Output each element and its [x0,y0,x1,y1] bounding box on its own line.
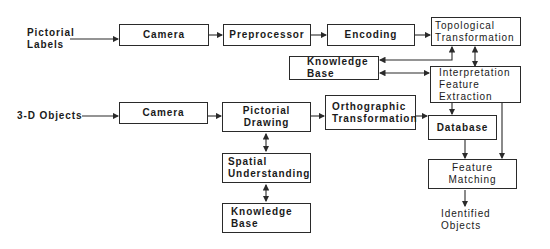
kb-bottom-line1: Knowledge [231,206,292,218]
pictorial-drawing-line1: Pictorial [243,105,291,117]
database-box: Database [428,115,497,140]
camera-top-label: Camera [143,29,185,41]
interpretation-line3: Extraction [439,91,492,103]
knowledge-base-bottom-box: Knowledge Base [222,203,311,233]
pictorial-labels-line1: Pictorial [27,27,75,39]
interpretation-line1: Interpretation [439,67,511,79]
database-label: Database [437,122,489,134]
spatial-line1: Spatial [228,156,267,168]
kb-top-line1: Knowledge [307,56,368,68]
camera-top-box: Camera [119,24,209,46]
encoding-label: Encoding [345,29,398,41]
block-diagram: Pictorial Labels 3-D Objects Camera Prep… [0,0,550,249]
spatial-line2: Understanding [228,168,310,180]
preprocessor-label: Preprocessor [229,29,304,41]
identified-objects-line2: Objects [441,220,491,232]
kb-top-line2: Base [307,68,335,80]
orthographic-line2: Transformation [332,113,417,125]
identified-objects-output: Identified Objects [441,208,491,232]
pictorial-drawing-line2: Drawing [244,117,290,129]
objects-3d-input: 3-D Objects [17,110,82,122]
camera-bottom-label: Camera [142,107,184,119]
topological-transformation-box: Topological Transformation [431,17,521,46]
preprocessor-box: Preprocessor [223,24,311,46]
spatial-understanding-box: Spatial Understanding [222,153,311,183]
pictorial-drawing-box: Pictorial Drawing [222,102,311,132]
camera-bottom-box: Camera [119,102,208,124]
identified-objects-line1: Identified [441,208,491,220]
pictorial-labels-input: Pictorial Labels [27,27,75,51]
feature-matching-box: Feature Matching [428,159,517,189]
interpretation-line2: Feature [439,79,480,91]
topological-line2: Transformation [435,32,514,44]
topological-line1: Topological [435,20,495,32]
knowledge-base-top-box: Knowledge Base [289,56,379,80]
interpretation-feature-extraction-box: Interpretation Feature Extraction [430,66,521,103]
feature-matching-line2: Matching [449,174,497,186]
orthographic-line1: Orthographic [332,101,406,113]
kb-bottom-line2: Base [231,218,259,230]
feature-matching-line1: Feature [452,162,493,174]
encoding-box: Encoding [327,24,415,46]
orthographic-transformation-box: Orthographic Transformation [325,95,416,130]
pictorial-labels-line2: Labels [27,39,75,51]
